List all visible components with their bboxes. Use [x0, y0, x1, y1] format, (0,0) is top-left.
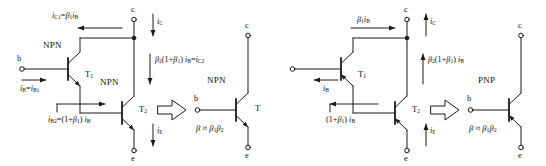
label-ib2-current-right: (1+β1) iB: [326, 116, 355, 125]
label-ic1-current-right: β1iB: [357, 16, 370, 25]
terminal-base-left: b: [17, 55, 21, 63]
label-ib2-current: iB2=(1+β1) iB: [48, 116, 90, 125]
label-ic2-current-right: β2(1+β1) iB: [428, 56, 464, 65]
terminal-emitter-left-equiv: e: [245, 152, 249, 160]
terminal-collector-right-equiv: c: [518, 22, 522, 30]
label-npn-t2: NPN: [100, 78, 119, 87]
label-transistor-t2: T2: [139, 105, 147, 115]
label-ie-current-right: iE: [430, 127, 436, 136]
label-transistor-t: T: [255, 104, 260, 113]
label-ib-current-right: iB: [323, 85, 329, 94]
label-beta-right: β ≈ β1β2: [469, 124, 497, 134]
terminal-emitter-right-equiv: e: [518, 152, 522, 160]
label-ie-current: iE: [157, 127, 163, 136]
diagram-canvas: iC1=β1iB c iC NPN T1 b iB=iB1 NPN β2(1+β…: [0, 0, 546, 166]
label-transistor-t1: T1: [85, 70, 93, 80]
terminal-base-right-equiv: b: [467, 95, 471, 103]
label-ic-current: iC: [157, 18, 163, 27]
label-transistor-t2-right: T2: [412, 105, 420, 115]
label-ic-current-right: iC: [430, 18, 436, 27]
label-npn-equiv: NPN: [207, 76, 226, 85]
terminal-emitter-right: e: [404, 155, 408, 163]
label-ic2-current: β2(1+β1) iB=iC2: [155, 56, 204, 65]
terminal-collector-left: c: [131, 6, 135, 14]
label-npn-t1: NPN: [43, 41, 62, 50]
label-pnp-equiv: PNP: [478, 76, 495, 85]
label-ib-current: iB=iB1: [20, 85, 39, 94]
label-transistor-t1-right: T1: [358, 70, 366, 80]
circuit-vector-layer: [0, 0, 546, 166]
terminal-emitter-left: e: [131, 155, 135, 163]
terminal-collector-left-equiv: c: [245, 22, 249, 30]
label-beta-left: β ≈ β1β2: [196, 124, 224, 134]
terminal-collector-right: c: [404, 6, 408, 14]
label-ic1-current: iC1=β1iB: [52, 12, 78, 21]
terminal-base-left-equiv: b: [194, 95, 198, 103]
